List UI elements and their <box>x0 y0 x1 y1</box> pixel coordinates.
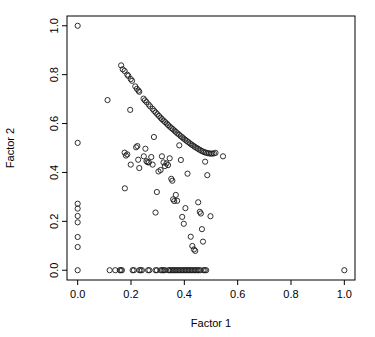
y-tick-label: 0.0 <box>48 263 60 278</box>
y-axis-title: Factor 2 <box>4 128 16 168</box>
plot-canvas: 0.00.20.40.60.81.0 0.00.20.40.60.81.0 Fa… <box>0 0 375 337</box>
y-tick-label: 0.2 <box>48 214 60 229</box>
y-tick-label: 0.6 <box>48 116 60 131</box>
y-tick-label: 0.8 <box>48 67 60 82</box>
x-tick-label: 0.0 <box>70 288 85 300</box>
x-tick-label: 0.8 <box>283 288 298 300</box>
y-tick-label: 0.4 <box>48 165 60 180</box>
y-tick-label: 1.0 <box>48 18 60 33</box>
x-tick-label: 0.2 <box>123 288 138 300</box>
x-axis-title: Factor 1 <box>191 317 231 329</box>
scatter-plot-figure: 0.00.20.40.60.81.0 0.00.20.40.60.81.0 Fa… <box>0 0 375 337</box>
x-tick-label: 1.0 <box>337 288 352 300</box>
x-tick-label: 0.6 <box>230 288 245 300</box>
x-tick-label: 0.4 <box>177 288 192 300</box>
